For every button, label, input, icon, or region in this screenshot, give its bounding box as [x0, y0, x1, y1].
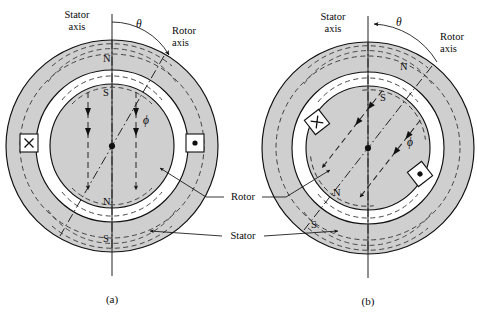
panel-a: ϕ θ Stator axis Rotor axis N S N S (a) [6, 9, 218, 306]
panel-b: ϕ θ Stator axis Rotor axis N S N S (b) [262, 11, 474, 308]
coil-marker-into-page-a [20, 134, 38, 152]
rotor-axis-label-line2-a: axis [172, 37, 189, 48]
theta-symbol-a: θ [136, 18, 142, 30]
rotor-center-dot-a [109, 143, 115, 149]
pole-label-b-0: N [400, 61, 408, 72]
flux-symbol-b: ϕ [407, 136, 413, 149]
rotor-axis-label-line1-b: Rotor [440, 31, 464, 42]
stator-callout-label: Stator [230, 230, 256, 241]
pole-label-b-3: S [311, 219, 317, 230]
rotor-axis-label-line1-a: Rotor [172, 25, 196, 36]
stator-axis-label-line1-a: Stator [64, 9, 90, 20]
pole-label-a-0: N [103, 53, 111, 64]
theta-symbol-b: θ [396, 16, 402, 28]
figure-canvas: ϕ θ Stator axis Rotor axis N S N S (a) [0, 0, 477, 316]
stator-axis-label-line2-b: axis [325, 23, 342, 34]
pole-label-b-1: S [380, 92, 386, 103]
pole-label-a-3: S [103, 233, 109, 244]
pole-label-a-2: N [103, 196, 111, 207]
panel-caption-b: (b) [362, 295, 375, 308]
pole-label-a-1: S [103, 87, 109, 98]
machine-cross-section-figure: ϕ θ Stator axis Rotor axis N S N S (a) [0, 0, 477, 316]
coil-marker-out-of-page-a [186, 134, 204, 152]
stator-axis-label-line1-b: Stator [320, 11, 346, 22]
stator-axis-label-line2-a: axis [69, 21, 86, 32]
panel-caption-a: (a) [106, 293, 119, 306]
rotor-center-dot-b [365, 145, 371, 151]
pole-label-b-2: N [333, 187, 341, 198]
rotor-callout-label: Rotor [231, 191, 255, 202]
rotor-axis-label-line2-b: axis [440, 43, 457, 54]
flux-symbol-a: ϕ [143, 114, 149, 127]
